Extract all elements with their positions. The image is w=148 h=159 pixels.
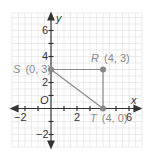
- x-axis-right-arrow-icon: [134, 106, 141, 112]
- x-tick-label: −2: [14, 111, 27, 123]
- y-tick-label: −2: [36, 128, 49, 140]
- x-tick-label: 2: [74, 111, 80, 123]
- point-T-label: T (4, 0): [90, 112, 127, 124]
- y-tick-label: 6: [42, 24, 48, 36]
- x-axis-label: x: [130, 94, 137, 106]
- y-tick-label: 4: [42, 50, 48, 62]
- coordinate-plane: y x O −2 2 6 6 4 2 −2 S (0, 3) R (4, 3) …: [0, 0, 148, 159]
- y-axis-label: y: [55, 12, 63, 24]
- point-S-label: S (0, 3): [13, 63, 51, 75]
- point-R: [100, 67, 106, 73]
- y-tick-label: 2: [42, 76, 48, 88]
- point-R-label: R (4, 3): [91, 52, 130, 64]
- origin-label: O: [40, 94, 49, 106]
- point-T: [100, 106, 106, 112]
- y-axis-up-arrow-icon: [48, 13, 54, 20]
- grid: [12, 13, 142, 147]
